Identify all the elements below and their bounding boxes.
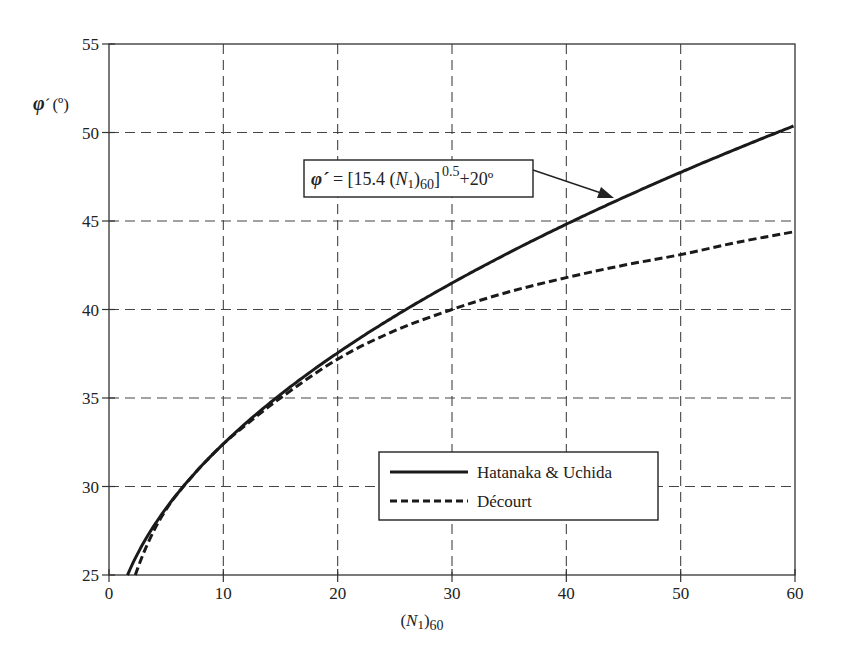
arrowhead-icon [597,187,614,198]
x-axis-label: (N1)60 [400,611,443,633]
y-tick-label: 40 [82,301,99,320]
y-tick-label: 55 [82,35,99,54]
x-tick-label: 40 [558,584,575,603]
y-tick-label: 25 [82,566,99,585]
y-axis-label: φ´(º) [33,92,69,115]
y-tick-label: 30 [82,478,99,497]
annotation-arrow [533,170,604,194]
chart-canvas: 010203040506025303540455055 φ´(º) (N1)60… [0,0,843,667]
legend-label-hatanaka: Hatanaka & Uchida [477,463,612,482]
y-label-phi: φ [33,92,45,115]
equation-text: φ´ = [15.4 (N1)60]0.5+20º [311,164,494,192]
x-tick-label: 20 [329,584,346,603]
y-tick-label: 50 [82,124,99,143]
x-tick-label: 60 [787,584,804,603]
decourt-line [135,232,795,575]
equation-annotation: φ´ = [15.4 (N1)60]0.5+20º [304,160,614,198]
x-tick-label: 50 [672,584,689,603]
x-tick-label: 30 [444,584,461,603]
y-tick-label: 35 [82,389,99,408]
legend: Hatanaka & Uchida Décourt [379,452,658,520]
legend-label-decourt: Décourt [477,492,532,511]
x-tick-label: 0 [105,584,114,603]
x-tick-label: 10 [215,584,232,603]
y-tick-label: 45 [82,212,99,231]
